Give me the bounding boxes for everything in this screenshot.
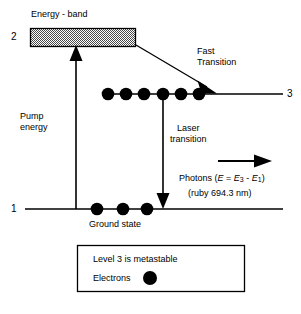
energy-level-diagram: Energy - band 2 3 1 Fast Transition Pump… <box>0 0 301 314</box>
diagram-canvas <box>0 0 301 314</box>
electron-level3-6 <box>193 88 206 101</box>
fast-transition-label-line1: Fast <box>197 46 215 57</box>
electron-level3-3 <box>138 88 151 101</box>
laser-transition-label-line1: Laser <box>177 123 200 134</box>
pump-energy-arrow-head <box>70 45 83 61</box>
legend-electron-marker <box>143 271 157 285</box>
energy-band-rect <box>31 29 136 47</box>
energy-band-label: Energy - band <box>31 9 88 20</box>
photons-minus: - <box>244 173 252 183</box>
fast-transition-label-line2: Transition <box>197 57 236 68</box>
electron-level1-2 <box>117 203 130 216</box>
level-1-label: 1 <box>11 203 17 214</box>
photons-text-suffix: ) <box>262 173 265 183</box>
ruby-wavelength-label: (ruby 694.3 nm) <box>188 188 252 199</box>
photons-text-prefix: Photons ( <box>179 173 218 183</box>
pump-energy-label-line2: energy <box>20 122 48 133</box>
laser-transition-label-line2: transition <box>170 134 207 145</box>
ground-state-label: Ground state <box>89 219 141 230</box>
electron-level3-5 <box>175 88 188 101</box>
electron-level3-4 <box>157 88 170 101</box>
electron-level3-2 <box>120 88 133 101</box>
electron-level3-1 <box>102 88 115 101</box>
legend-electrons-text: Electrons <box>93 273 131 284</box>
level-3-label: 3 <box>287 88 293 99</box>
laser-transition-arrow-head <box>157 193 170 209</box>
electron-level1-1 <box>91 203 104 216</box>
pump-energy-label-line1: Pump <box>20 111 44 122</box>
legend-box <box>78 246 245 292</box>
electron-level1-3 <box>141 203 154 216</box>
level-2-label: 2 <box>11 31 17 42</box>
legend-metastable-text: Level 3 is metastable <box>93 254 178 265</box>
photon-arrow-head <box>254 155 272 168</box>
photons-energy-label: Photons (E = E3 - E1) <box>179 173 265 185</box>
photons-equals: = <box>224 173 234 183</box>
